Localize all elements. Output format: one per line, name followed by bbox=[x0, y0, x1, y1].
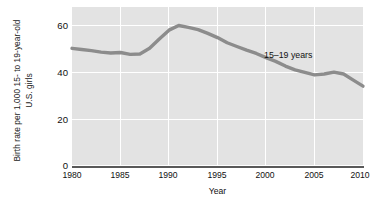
y-tick-label-40: 40 bbox=[44, 67, 68, 78]
x-axis-title: Year bbox=[72, 186, 363, 196]
y-tick-label-0: 0 bbox=[44, 160, 68, 171]
y-axis-title-line-1: Birth rate per 1,000 15- to 19-year-old bbox=[12, 19, 24, 161]
x-tick-label-1995: 1995 bbox=[207, 170, 226, 180]
y-axis-title-line-2: U.S. girls bbox=[23, 19, 35, 161]
x-tick-label-1990: 1990 bbox=[158, 170, 177, 180]
x-tick-label-2010: 2010 bbox=[350, 170, 369, 180]
y-tick-label-60: 60 bbox=[44, 20, 68, 31]
chart-figure: Birth rate per 1,000 15- to 19-year-old … bbox=[0, 0, 378, 207]
x-axis-line bbox=[72, 166, 364, 168]
series-annotation-15-19-years: 15–19 years bbox=[264, 50, 312, 60]
x-tick-label-2000: 2000 bbox=[255, 170, 274, 180]
x-tick-label-2005: 2005 bbox=[304, 170, 323, 180]
plot-area bbox=[72, 7, 363, 167]
x-tick-label-1980: 1980 bbox=[62, 170, 81, 180]
x-tick-label-1985: 1985 bbox=[110, 170, 129, 180]
y-tick-label-20: 20 bbox=[44, 114, 68, 125]
series-line-15-19-years bbox=[72, 7, 363, 167]
y-axis-tick-labels: 60 40 20 0 bbox=[40, 7, 68, 167]
